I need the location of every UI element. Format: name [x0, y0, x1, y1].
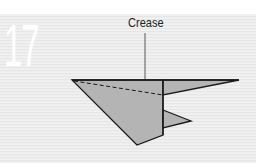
instruction-step-panel: 17 Crease	[0, 0, 256, 163]
folded-body	[72, 80, 163, 145]
right-flap	[163, 110, 191, 128]
right-wing	[163, 80, 239, 95]
paper-airplane-fold-diagram	[0, 0, 256, 163]
